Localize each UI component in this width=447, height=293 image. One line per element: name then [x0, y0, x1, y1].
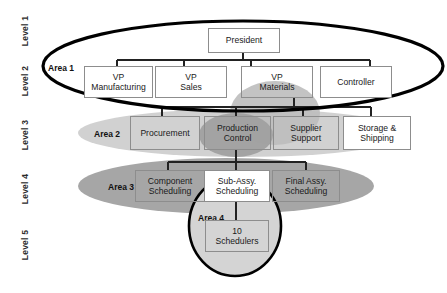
diagram-canvas: Level 1 Level 2 Level 3 Level 4 Level 5 …	[0, 0, 447, 293]
node-vp-sales-label: VP Sales	[180, 72, 202, 93]
node-ten-schedulers[interactable]: 10 Schedulers	[205, 220, 269, 252]
level-label-5: Level 5	[20, 223, 30, 267]
node-procurement-label: Procurement	[140, 128, 189, 138]
level-label-1: Level 1	[20, 9, 30, 53]
connectors-level1-to-level2	[117, 53, 370, 66]
node-ten-schedulers-label: 10 Schedulers	[216, 226, 259, 247]
node-sub-assy-scheduling-label: Sub-Assy. Scheduling	[216, 176, 259, 197]
node-sub-assy-scheduling[interactable]: Sub-Assy. Scheduling	[204, 170, 270, 202]
level-label-2: Level 2	[20, 59, 30, 103]
node-controller-label: Controller	[337, 77, 374, 87]
node-component-scheduling[interactable]: Component Scheduling	[135, 170, 205, 202]
level-label-4: Level 4	[20, 167, 30, 211]
node-production-control-label: Production Control	[217, 123, 258, 144]
node-vp-materials[interactable]: VP Materials	[241, 66, 313, 98]
node-vp-manufacturing-label: VP Manufacturing	[91, 72, 145, 93]
area-label-2: Area 2	[94, 129, 120, 139]
node-vp-manufacturing[interactable]: VP Manufacturing	[84, 66, 153, 98]
node-president-label: President	[226, 35, 262, 45]
node-supplier-support-label: Supplier Support	[290, 123, 322, 144]
node-component-scheduling-label: Component Scheduling	[148, 176, 192, 197]
node-storage-shipping[interactable]: Storage & Shipping	[343, 116, 411, 150]
area-label-3: Area 3	[108, 182, 134, 192]
node-storage-shipping-label: Storage & Shipping	[358, 123, 396, 144]
node-final-assy-scheduling-label: Final Assy. Scheduling	[285, 176, 328, 197]
node-final-assy-scheduling[interactable]: Final Assy. Scheduling	[272, 170, 340, 202]
node-controller[interactable]: Controller	[320, 66, 392, 98]
node-production-control[interactable]: Production Control	[204, 116, 271, 150]
node-supplier-support[interactable]: Supplier Support	[273, 116, 339, 150]
node-vp-materials-label: VP Materials	[260, 72, 295, 93]
node-procurement[interactable]: Procurement	[130, 116, 200, 150]
area-label-1: Area 1	[48, 63, 74, 73]
node-vp-sales[interactable]: VP Sales	[155, 66, 227, 98]
level-label-3: Level 3	[20, 113, 30, 157]
node-president[interactable]: President	[208, 28, 280, 53]
